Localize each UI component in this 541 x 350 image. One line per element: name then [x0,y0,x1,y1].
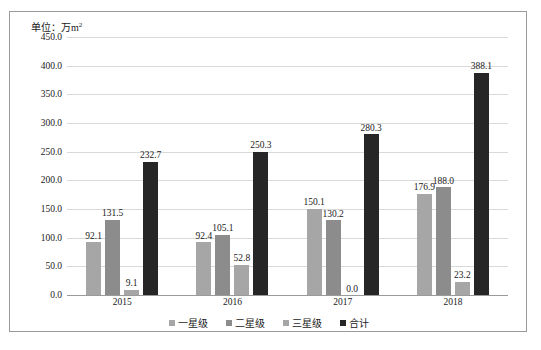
x-axis-tick-label: 2017 [333,297,352,307]
x-axis-tick-label: 2018 [443,297,462,307]
legend-swatch-icon [283,320,289,326]
x-axis-tick-label: 2016 [223,297,242,307]
bar-value-label: 188.0 [433,177,454,187]
legend-label: 三星级 [292,315,322,330]
bar[interactable]: 52.8 [234,265,249,295]
legend-swatch-icon [226,320,232,326]
bar-value-label: 130.2 [322,210,343,220]
y-axis-tick-label: 150.0 [41,204,62,214]
bar-group: 92.1131.59.1232.7 [67,37,177,295]
bar[interactable]: 9.1 [124,290,139,295]
bar-value-label: 232.7 [140,151,161,161]
bar-value-label: 388.1 [471,62,492,72]
bar[interactable]: 23.2 [455,282,470,295]
bar-value-label: 23.2 [454,271,471,281]
bar-value-label: 9.1 [126,279,138,289]
legend-label: 合计 [349,315,369,330]
gridline [67,295,508,296]
bar[interactable]: 176.9 [417,194,432,295]
y-axis-tick-label: 400.0 [41,61,62,71]
bar-value-label: 52.8 [234,254,251,264]
bar-value-label: 0.0 [346,285,358,295]
bar-group: 176.9188.023.2388.1 [398,37,508,295]
y-axis-tick-label: 250.0 [41,147,62,157]
bar-value-label: 150.1 [303,198,324,208]
legend-label: 二星级 [235,315,265,330]
chart-legend: 一星级二星级三星级合计 [10,315,528,330]
chart-frame: 单位：万m2 450.0400.0350.0300.0250.0200.0150… [9,11,527,332]
bar-value-label: 250.3 [250,141,271,151]
legend-item[interactable]: 合计 [340,315,369,330]
bar-group: 92.4105.152.8250.3 [177,37,287,295]
bar-value-label: 280.3 [360,124,381,134]
bar[interactable]: 105.1 [215,235,230,295]
bar[interactable]: 92.4 [196,242,211,295]
bar[interactable]: 150.1 [307,209,322,295]
bar-group: 150.1130.20.0280.3 [288,37,398,295]
x-axis-tick-labels: 2015201620172018 [67,297,508,313]
bar[interactable]: 388.1 [474,73,489,296]
plot-area: 92.1131.59.1232.792.4105.152.8250.3150.1… [67,37,508,295]
y-axis-tick-label: 0.0 [50,290,62,300]
legend-label: 一星级 [178,315,208,330]
legend-swatch-icon [169,320,175,326]
x-axis-tick-label: 2015 [113,297,132,307]
legend-item[interactable]: 三星级 [283,315,322,330]
y-axis-tick-label: 100.0 [41,233,62,243]
legend-swatch-icon [340,320,346,326]
bar[interactable]: 280.3 [364,134,379,295]
y-axis-tick-label: 300.0 [41,118,62,128]
unit-label-superscript: 2 [79,21,83,29]
bar[interactable]: 232.7 [143,162,158,295]
bar-value-label: 92.1 [85,232,102,242]
bar[interactable]: 250.3 [253,152,268,296]
bar-value-label: 131.5 [102,209,123,219]
bar-value-label: 92.4 [196,232,213,242]
bar[interactable]: 130.2 [326,220,341,295]
bar[interactable]: 92.1 [86,242,101,295]
bar-value-label: 105.1 [212,224,233,234]
y-axis-tick-label: 350.0 [41,89,62,99]
y-axis-tick-label: 200.0 [41,175,62,185]
y-axis-tick-labels: 450.0400.0350.0300.0250.0200.0150.0100.0… [18,37,62,295]
y-axis-tick-label: 50.0 [45,261,62,271]
bar[interactable]: 188.0 [436,187,451,295]
legend-item[interactable]: 二星级 [226,315,265,330]
chart-figure: 单位：万m2 450.0400.0350.0300.0250.0200.0150… [0,0,541,350]
bar[interactable]: 131.5 [105,220,120,295]
y-axis-tick-label: 450.0 [41,32,62,42]
legend-item[interactable]: 一星级 [169,315,208,330]
